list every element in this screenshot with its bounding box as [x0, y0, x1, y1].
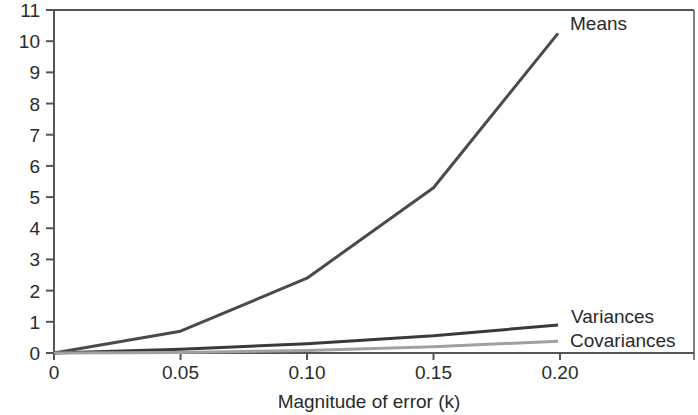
y-tick-label: 6	[29, 156, 40, 177]
x-axis: 00.050.100.150.20	[49, 353, 579, 383]
series-line-means	[54, 33, 558, 353]
y-tick-label: 11	[20, 0, 40, 21]
y-tick-label: 9	[29, 62, 40, 83]
series-label-variances: Variances	[571, 306, 654, 327]
x-tick-label: 0.05	[162, 362, 199, 383]
x-axis-title: Magnitude of error (k)	[278, 391, 461, 412]
series-lines	[54, 33, 558, 353]
x-tick-label: 0.20	[542, 362, 579, 383]
y-tick-label: 4	[29, 218, 40, 239]
y-axis: 01234567891011	[19, 0, 54, 364]
y-tick-label: 2	[29, 281, 40, 302]
y-tick-label: 1	[29, 312, 40, 333]
y-tick-label: 3	[29, 249, 40, 270]
x-tick-label: 0.10	[289, 362, 326, 383]
x-tick-label: 0.15	[415, 362, 452, 383]
series-label-means: Means	[570, 13, 627, 34]
line-chart: 01234567891011 00.050.100.150.20 Means V…	[0, 0, 698, 415]
y-tick-label: 7	[29, 125, 40, 146]
x-tick-label: 0	[49, 362, 60, 383]
y-tick-label: 5	[29, 187, 40, 208]
series-label-covariances: Covariances	[570, 330, 676, 351]
y-tick-label: 8	[29, 94, 40, 115]
y-tick-label: 10	[19, 31, 40, 52]
y-tick-label: 0	[29, 343, 40, 364]
